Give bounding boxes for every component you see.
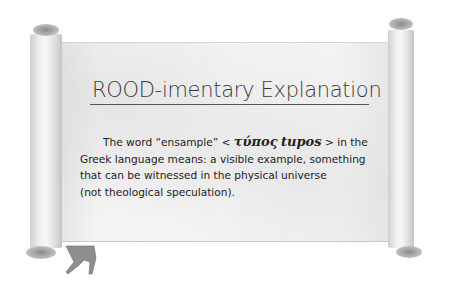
paragraph-line-2: Greek language means: a visible example,… <box>80 151 380 168</box>
explanation-paragraph: The word “ensample” < τύπος tupos > in t… <box>80 134 380 200</box>
scroll-illustration: ROOD-imentary Explanation The word “ensa… <box>0 0 450 292</box>
right-scroll-roll <box>388 30 414 248</box>
right-bottom-knob <box>396 246 422 258</box>
left-top-knob <box>33 24 59 36</box>
title-underline <box>90 104 369 105</box>
paragraph-line-4: (not theological speculation). <box>80 184 380 201</box>
line1-prefix: The word “ensample” < <box>103 136 234 148</box>
paragraph-line-1: The word “ensample” < τύπος tupos > in t… <box>80 134 380 151</box>
transliteration: tupos <box>281 134 322 149</box>
curled-paper-corner-icon <box>64 244 104 278</box>
left-scroll-roll <box>30 34 62 248</box>
line1-suffix: > in the <box>322 136 368 148</box>
paragraph-line-3: that can be witnessed in the physical un… <box>80 167 380 184</box>
greek-word: τύπος <box>234 134 278 149</box>
right-top-knob <box>389 18 413 30</box>
page-title: ROOD-imentary Explanation <box>92 78 382 102</box>
left-bottom-knob <box>26 246 56 259</box>
